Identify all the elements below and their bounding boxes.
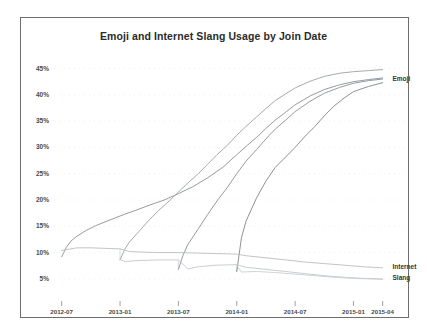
y-axis-tick-label: 40% (23, 91, 49, 98)
series-lines (62, 70, 383, 280)
y-axis-tick-label: 35% (23, 117, 49, 124)
gridlines (54, 69, 406, 279)
chart-container: Emoji and Internet Slang Usage by Join D… (0, 0, 427, 335)
series-line (120, 259, 383, 278)
series-line (237, 265, 383, 279)
x-axis-tick-label: 2013-01 (97, 308, 143, 315)
y-axis-tick-label: 25% (23, 170, 49, 177)
y-axis-tick-label: 30% (23, 143, 49, 150)
x-axis-ticks (62, 301, 383, 306)
chart-plot-svg (0, 0, 427, 335)
series-line (62, 78, 383, 257)
x-axis-tick-label: 2014-01 (214, 308, 260, 315)
series-label-internet: Internet (392, 263, 416, 270)
series-label-slang: Slang (392, 274, 410, 281)
y-axis-tick-label: 15% (23, 222, 49, 229)
y-axis-tick-label: 45% (23, 65, 49, 72)
x-axis-tick-label: 2014-07 (272, 308, 318, 315)
y-axis-tick-label: 10% (23, 249, 49, 256)
series-line (178, 79, 382, 269)
series-label-emoji: Emoji (392, 75, 410, 82)
y-axis-tick-label: 20% (23, 196, 49, 203)
y-axis-tick-label: 5% (23, 275, 49, 282)
x-axis-tick-label: 2015-04 (360, 308, 406, 315)
series-line (237, 83, 383, 272)
x-axis-tick-label: 2013-07 (155, 308, 201, 315)
x-axis-tick-label: 2012-07 (39, 308, 85, 315)
